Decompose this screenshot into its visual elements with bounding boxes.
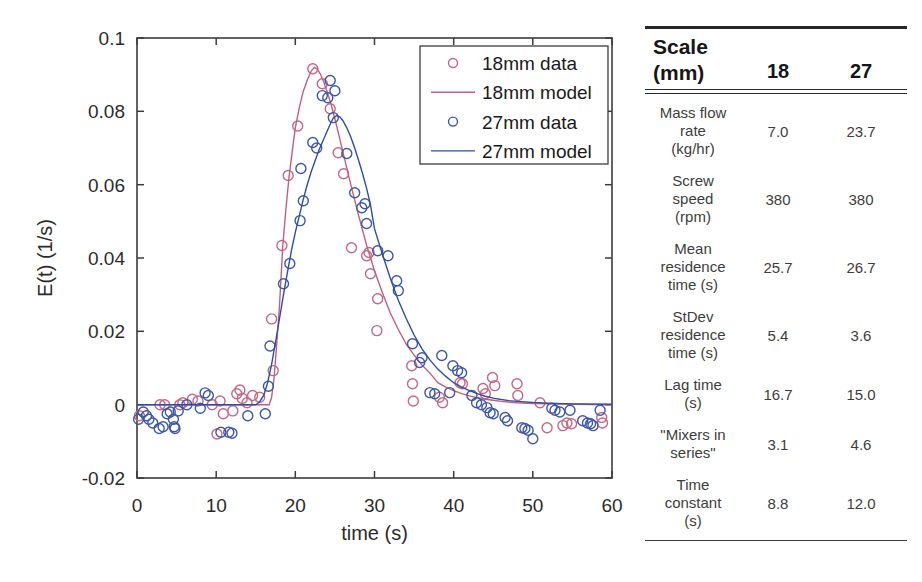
legend-entry: 27mm model [482,141,592,162]
row-value-18: 16.7 [741,386,815,403]
table-row: Mass flow rate (kg/hr) 7.0 23.7 [645,97,907,165]
table-row: Screw speed (rpm) 380 380 [645,165,907,233]
row-label: Mass flow rate (kg/hr) [645,104,741,158]
row-value-18: 7.0 [741,123,815,140]
y-tick-label: 0 [114,395,125,416]
column-header-18: 18 [741,60,815,86]
legend-entry: 18mm data [482,53,577,74]
row-label: Time constant (s) [645,476,741,530]
column-header-27: 27 [815,60,907,86]
row-label: Mean residence time (s) [645,240,741,294]
row-value-27: 15.0 [815,386,907,403]
table-title: Scale [653,34,741,60]
row-value-27: 3.6 [815,327,907,344]
row-value-18: 5.4 [741,327,815,344]
rtd-chart: 0102030405060time (s)-0.0200.020.040.060… [0,0,634,582]
chart-canvas: 0102030405060time (s)-0.0200.020.040.060… [0,0,634,582]
table-row: Lag time (s) 16.7 15.0 [645,369,907,419]
y-tick-label: 0.02 [88,321,125,342]
table-row: Mean residence time (s) 25.7 26.7 [645,233,907,301]
table-header-rule [645,89,907,94]
x-tick-label: 20 [285,495,306,516]
row-label: Screw speed (rpm) [645,172,741,226]
table-bottom-rule [645,540,907,541]
y-tick-label: -0.02 [82,468,125,489]
y-tick-label: 0.04 [88,248,125,269]
table-header-scale: Scale (mm) [645,34,741,86]
table-header: Scale (mm) 18 27 [645,29,907,89]
x-axis-label: time (s) [341,522,408,544]
row-value-27: 380 [815,191,907,208]
y-tick-label: 0.06 [88,175,125,196]
x-tick-label: 30 [364,495,385,516]
figure-page: 0102030405060time (s)-0.0200.020.040.060… [0,0,922,582]
row-value-27: 26.7 [815,259,907,276]
y-tick-label: 0.1 [99,28,125,49]
table-unit: (mm) [653,60,741,86]
x-tick-label: 0 [132,495,143,516]
y-tick-label: 0.08 [88,101,125,122]
legend-entry: 27mm data [482,112,577,133]
table-row: StDev residence time (s) 5.4 3.6 [645,301,907,369]
row-value-18: 3.1 [741,436,815,453]
legend: 18mm data18mm model27mm data27mm model [420,46,608,164]
row-label: StDev residence time (s) [645,308,741,362]
row-value-27: 12.0 [815,495,907,512]
row-value-18: 25.7 [741,259,815,276]
legend-entry: 18mm model [482,82,592,103]
x-tick-label: 60 [601,495,622,516]
x-tick-label: 50 [522,495,543,516]
x-tick-label: 10 [206,495,227,516]
row-label: Lag time (s) [645,376,741,412]
row-value-27: 4.6 [815,436,907,453]
parameters-table: Scale (mm) 18 27 Mass flow rate (kg/hr) … [645,26,907,541]
table-row: "Mixers in series" 3.1 4.6 [645,419,907,469]
x-tick-label: 40 [443,495,464,516]
y-axis-label: E(t) (1/s) [34,219,56,297]
row-label: "Mixers in series" [645,426,741,462]
row-value-27: 23.7 [815,123,907,140]
row-value-18: 8.8 [741,495,815,512]
row-value-18: 380 [741,191,815,208]
table-row: Time constant (s) 8.8 12.0 [645,469,907,537]
